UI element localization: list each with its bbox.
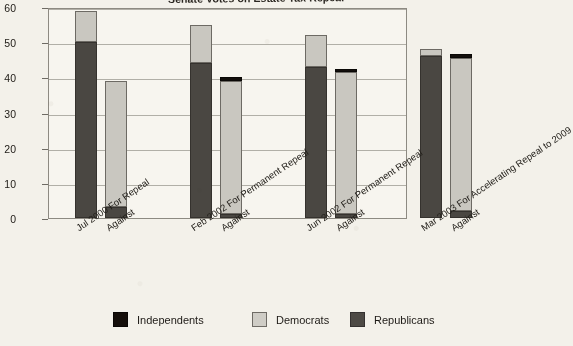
bar-segment-dem (190, 25, 212, 64)
chart-title: Senate Votes on Estate Tax Repeal (168, 0, 344, 5)
y-axis-tick-label: 0 (0, 213, 16, 225)
y-axis-tick-label: 30 (0, 108, 16, 120)
y-axis-tick-label: 40 (0, 72, 16, 84)
bar-segment-dem (105, 81, 127, 208)
legend-label: Democrats (276, 314, 329, 326)
chart-legend: IndependentsDemocratsRepublicans (0, 312, 424, 338)
bar-segment-rep (305, 67, 327, 218)
legend-label: Independents (137, 314, 204, 326)
legend-label: Republicans (374, 314, 435, 326)
legend-item-democrats[interactable]: Democrats (252, 312, 329, 327)
bar-segment-ind (335, 69, 357, 73)
plot-area (48, 8, 407, 219)
y-axis-tick-label: 10 (0, 178, 16, 190)
y-axis-tick-label: 20 (0, 143, 16, 155)
y-axis-tick-label: 50 (0, 37, 16, 49)
legend-swatch-democrats (252, 312, 267, 327)
legend-swatch-republicans (350, 312, 365, 327)
y-axis-tick-mark (42, 219, 48, 220)
legend-item-independents[interactable]: Independents (113, 312, 204, 327)
bar-segment-ind (450, 54, 472, 58)
bar-for-repeal (75, 11, 97, 218)
bar-segment-dem (450, 58, 472, 211)
y-axis-tick-label: 60 (0, 2, 16, 14)
bar-segment-rep (420, 56, 442, 218)
bar-segment-rep (190, 63, 212, 218)
bar-segment-ind (220, 77, 242, 81)
legend-item-republicans[interactable]: Republicans (350, 312, 435, 327)
bar-segment-dem (75, 11, 97, 43)
x-axis-label: Mar 2003 For Accelerating Repeal to 2009 (419, 124, 573, 233)
gridline (49, 44, 406, 45)
gridline (49, 9, 406, 10)
bar-segment-rep (75, 42, 97, 218)
bar-for-repeal (305, 35, 327, 218)
bar-segment-dem (305, 35, 327, 67)
legend-swatch-independents (113, 312, 128, 327)
bar-for-repeal (420, 49, 442, 218)
bar-for-repeal (190, 25, 212, 218)
bar-segment-dem (420, 49, 442, 56)
